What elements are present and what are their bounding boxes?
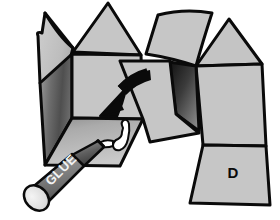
panel-d-label: D: [228, 164, 239, 181]
box-assembly-illustration: D GLUE: [0, 0, 280, 220]
illustration-root: D GLUE: [0, 0, 280, 220]
right-side-panel: [196, 64, 266, 146]
